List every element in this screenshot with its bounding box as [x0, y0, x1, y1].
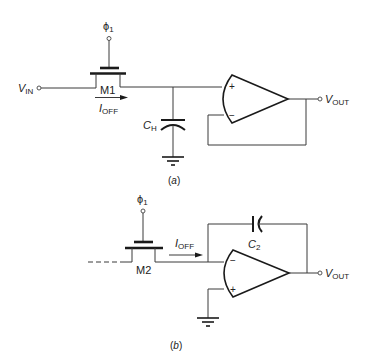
- vin-label: VIN: [18, 82, 34, 96]
- opamp-plus-a: +: [229, 81, 235, 92]
- feedback-wire-right-b: [258, 224, 307, 273]
- ground-icon: [162, 157, 184, 165]
- arrow-right-icon: [120, 95, 128, 100]
- opamp-b: − +: [224, 250, 289, 297]
- arrow-right-icon: [195, 253, 203, 258]
- vout-terminal-a: [318, 97, 322, 101]
- vout-label-a: VOUT: [325, 93, 349, 107]
- transistor-label-m1: M1: [100, 84, 115, 96]
- source-wire-b: [120, 248, 132, 262]
- clock-label-a: ϕ1: [103, 20, 114, 34]
- clock-label-b: ϕ1: [137, 193, 148, 207]
- opamp-minus-b: −: [230, 255, 236, 266]
- panel-b: ϕ1 M2 IOFF C2 − +: [88, 193, 349, 351]
- capacitor-label-c2: C2: [248, 238, 261, 252]
- opamp-a: + −: [223, 75, 288, 123]
- plus-input-wire-b: [208, 289, 224, 318]
- transistor-label-m2: M2: [136, 264, 151, 276]
- opamp-minus-a: −: [229, 110, 235, 121]
- clock-terminal-a: [107, 37, 111, 41]
- clock-terminal-b: [141, 209, 145, 213]
- opamp-plus-b: +: [230, 284, 236, 295]
- panel-a: ϕ1 VIN M1 IOFF CH +: [18, 20, 349, 186]
- ground-icon: [197, 318, 219, 326]
- ioff-label-a: IOFF: [99, 102, 118, 116]
- capacitor-label-ch: CH: [143, 119, 157, 133]
- vout-label-b: VOUT: [325, 267, 349, 281]
- circuit-diagram: ϕ1 VIN M1 IOFF CH +: [0, 0, 368, 360]
- caption-b: (b): [170, 340, 182, 351]
- ioff-label-b: IOFF: [175, 237, 194, 251]
- drain-wire-a: [120, 74, 222, 88]
- vout-terminal-b: [318, 271, 322, 275]
- feedback-wire-a: [208, 99, 306, 145]
- source-wire-a: [41, 74, 96, 89]
- vin-terminal: [37, 86, 41, 90]
- caption-a: (a): [168, 175, 180, 186]
